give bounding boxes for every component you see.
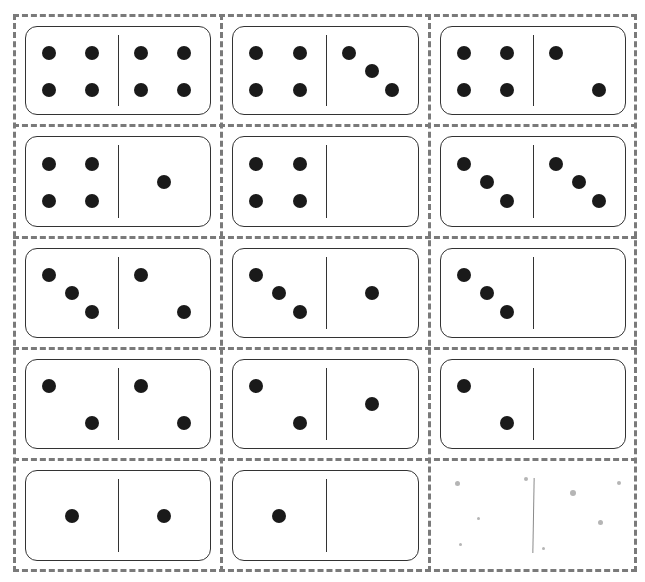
pip-icon <box>293 194 307 208</box>
pip-icon <box>457 157 471 171</box>
domino-half-right <box>118 137 210 226</box>
domino-cell <box>15 349 221 459</box>
pip-icon <box>293 305 307 319</box>
pip-icon <box>457 83 471 97</box>
pip-icon <box>249 379 263 393</box>
pip-icon <box>177 83 191 97</box>
domino-cell <box>222 126 429 237</box>
pip-icon <box>249 157 263 171</box>
pip-icon <box>157 509 171 523</box>
domino-half-right <box>533 137 625 226</box>
domino-half-right <box>533 470 626 561</box>
pip-icon <box>500 46 514 60</box>
domino-half-right <box>326 360 419 448</box>
domino-cell <box>15 460 221 571</box>
domino-tile-3-3 <box>440 136 626 227</box>
domino-half-right <box>118 249 210 337</box>
domino-tile-0-0 <box>440 470 626 561</box>
domino-tile-4-3 <box>232 26 419 115</box>
domino-half-left <box>26 137 118 226</box>
domino-tile-2-0 <box>440 359 626 449</box>
pip-icon <box>500 194 514 208</box>
pip-icon <box>457 379 471 393</box>
pip-icon <box>457 46 471 60</box>
domino-half-left <box>233 137 326 226</box>
pip-icon <box>592 83 606 97</box>
pip-icon <box>385 83 399 97</box>
pip-icon <box>134 83 148 97</box>
pip-icon <box>293 83 307 97</box>
pip-icon <box>293 46 307 60</box>
domino-tile-2-2 <box>25 359 211 449</box>
domino-cell <box>222 16 429 125</box>
pip-icon <box>293 416 307 430</box>
pip-icon <box>65 286 79 300</box>
domino-half-left <box>26 27 118 114</box>
domino-half-right <box>326 471 419 560</box>
pip-icon <box>572 175 586 189</box>
pip-icon <box>365 64 379 78</box>
domino-cell <box>430 126 636 237</box>
pip-icon <box>85 305 99 319</box>
domino-cell <box>222 349 429 459</box>
domino-tile-4-2 <box>440 26 626 115</box>
speck <box>524 477 528 481</box>
domino-cell <box>222 238 429 348</box>
domino-cell <box>15 126 221 237</box>
pip-icon <box>42 379 56 393</box>
pip-icon <box>342 46 356 60</box>
pip-icon <box>272 509 286 523</box>
domino-half-right <box>326 27 419 114</box>
domino-half-left <box>233 27 326 114</box>
pip-icon <box>85 83 99 97</box>
pip-icon <box>272 286 286 300</box>
domino-tile-4-0 <box>232 136 419 227</box>
pip-icon <box>177 305 191 319</box>
domino-cell <box>430 16 636 125</box>
pip-icon <box>500 83 514 97</box>
pip-icon <box>134 46 148 60</box>
domino-half-left <box>26 249 118 337</box>
pip-icon <box>249 83 263 97</box>
domino-half-right <box>326 249 419 337</box>
pip-icon <box>134 268 148 282</box>
domino-half-right <box>533 27 625 114</box>
domino-cell <box>222 460 429 571</box>
pip-icon <box>592 194 606 208</box>
domino-half-left <box>441 249 533 337</box>
pip-icon <box>85 46 99 60</box>
domino-half-right <box>326 137 419 226</box>
domino-half-left <box>233 360 326 448</box>
domino-half-right <box>118 471 210 560</box>
domino-half-left <box>26 360 118 448</box>
domino-tile-4-1 <box>25 136 211 227</box>
pip-icon <box>42 157 56 171</box>
domino-half-right <box>533 360 625 448</box>
domino-cell <box>430 238 636 348</box>
domino-tile-2-1 <box>232 359 419 449</box>
pip-icon <box>85 194 99 208</box>
pip-icon <box>85 157 99 171</box>
pip-icon <box>457 268 471 282</box>
pip-icon <box>177 416 191 430</box>
speck <box>617 481 621 485</box>
pip-icon <box>85 416 99 430</box>
pip-icon <box>177 46 191 60</box>
domino-cell <box>430 349 636 459</box>
pip-icon <box>500 416 514 430</box>
pip-icon <box>157 175 171 189</box>
pip-icon <box>249 268 263 282</box>
domino-half-left <box>26 471 118 560</box>
domino-tile-3-2 <box>25 248 211 338</box>
domino-half-right <box>118 360 210 448</box>
domino-tile-1-1 <box>25 470 211 561</box>
domino-half-left <box>233 249 326 337</box>
pip-icon <box>249 46 263 60</box>
pip-icon <box>549 46 563 60</box>
pip-icon <box>42 46 56 60</box>
pip-icon <box>500 305 514 319</box>
pip-icon <box>42 268 56 282</box>
pip-icon <box>480 175 494 189</box>
domino-half-left <box>441 137 533 226</box>
pip-icon <box>134 379 148 393</box>
